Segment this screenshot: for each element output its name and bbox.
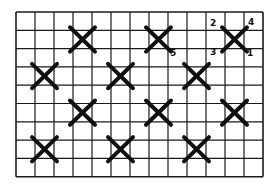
step-label-1: 1: [247, 49, 253, 58]
cross-stitch-diagram: 2 4 3 1 5: [0, 0, 279, 187]
grid-lines: [16, 12, 263, 177]
cross-stitch-x-icon: [32, 137, 57, 161]
cross-stitch-x-icon: [146, 101, 171, 125]
stitch-grid: [0, 0, 279, 187]
cross-stitch-x-icon: [184, 137, 209, 161]
cross-stitch-x-icon: [222, 101, 247, 125]
cross-stitch-x-icon: [70, 27, 95, 51]
cross-stitch-x-icon: [146, 27, 171, 51]
cross-stitch-x-icon: [32, 64, 57, 88]
step-label-5: 5: [170, 49, 176, 58]
cross-stitch-x-icon: [222, 27, 247, 51]
step-label-3: 3: [210, 48, 216, 57]
cross-stitch-x-icon: [108, 137, 133, 161]
cross-stitch-x-icon: [70, 101, 95, 125]
step-label-2: 2: [210, 19, 216, 28]
cross-stitch-x-icon: [184, 64, 209, 88]
cross-stitch-x-icon: [108, 64, 133, 88]
step-label-4: 4: [248, 18, 254, 27]
